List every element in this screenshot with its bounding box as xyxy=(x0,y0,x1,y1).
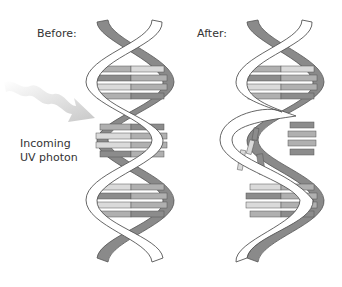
uv-photon-arrow-icon xyxy=(4,81,95,122)
base-pairs-top xyxy=(96,66,167,99)
after-helix xyxy=(220,20,324,262)
before-helix xyxy=(86,20,174,262)
diagram-canvas xyxy=(0,0,342,287)
base-pairs-bottom xyxy=(96,184,167,217)
after-base-pairs-top xyxy=(246,66,317,99)
